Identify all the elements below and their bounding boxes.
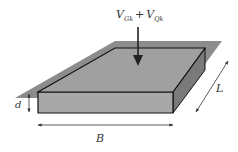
load-label-sub1: Gk (124, 15, 133, 23)
slab-footing-diagram: VGk+VQk d B L (0, 0, 238, 152)
thickness-label: d (15, 99, 21, 110)
load-label-plus: + (135, 8, 144, 21)
width-label: B (95, 132, 104, 145)
load-label: VGk+VQk (116, 8, 164, 23)
load-label-sub2: Qk (154, 15, 163, 23)
length-label: L (215, 82, 223, 95)
slab-front-face (38, 92, 173, 113)
